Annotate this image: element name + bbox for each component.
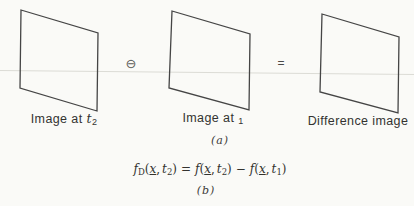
equals-operator: = (277, 56, 284, 70)
image-frame-t2 (20, 10, 98, 111)
label-image-at-t2-text: Image at (31, 112, 87, 126)
formula-close-paren-3: ) (282, 162, 287, 176)
caption-b: (b) (197, 184, 216, 197)
caption-a: (a) (211, 134, 229, 147)
formula-comma-2: , (211, 162, 215, 176)
label-image-at-t1-text: Image at (182, 111, 238, 125)
scanned-figure-page: ⊖ = Image at t2 Image at 1 Difference im… (0, 0, 414, 206)
scan-fold-line (0, 71, 414, 75)
formula-comma: , (156, 162, 160, 176)
circled-minus-icon: ⊖ (126, 56, 137, 71)
formula-comma-3: , (266, 162, 270, 176)
label-image-at-t1: Image at 1 (182, 111, 243, 126)
formula-close-paren-2: ) (227, 162, 232, 176)
formula-x-vector-2: x (204, 162, 211, 176)
difference-image-frame (320, 14, 399, 113)
image-frame-t1 (169, 11, 250, 110)
formula-equals: = (181, 162, 191, 176)
formula-close-paren: ) (172, 162, 177, 176)
label-t1-subscript: 1 (238, 116, 243, 126)
formula-x-vector: x (149, 162, 156, 176)
formula-minus: − (236, 162, 246, 176)
label-difference-image: Difference image (308, 114, 409, 128)
difference-formula: fD(x,t2)=f(x,t2)−f(x,t1) (133, 162, 286, 176)
label-image-at-t2: Image at t2 (31, 111, 98, 127)
label-t2-subscript: 2 (92, 117, 97, 127)
